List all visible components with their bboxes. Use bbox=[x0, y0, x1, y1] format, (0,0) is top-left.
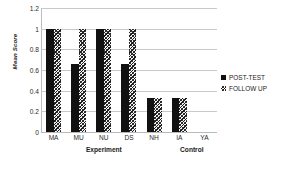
bar-group-nh bbox=[142, 8, 167, 132]
y-axis-tick: 0.6 bbox=[30, 67, 39, 74]
y-axis-tick: 0.8 bbox=[30, 46, 39, 53]
x-axis-tick-nu: NU bbox=[91, 134, 116, 141]
x-axis-tick-ds: DS bbox=[116, 134, 141, 141]
bar-ma-post-test bbox=[46, 29, 54, 132]
x-axis-tick-nh: NH bbox=[142, 134, 167, 141]
group-label-experiment: Experiment bbox=[64, 146, 144, 153]
gridline bbox=[41, 132, 217, 133]
bar-groups bbox=[41, 8, 217, 132]
x-axis-tick-ya: YA bbox=[192, 134, 217, 141]
group-label-control: Control bbox=[152, 146, 232, 153]
legend-item-post-test[interactable]: POST-TEST bbox=[221, 72, 305, 83]
legend-swatch-icon bbox=[221, 86, 226, 91]
y-axis-tick-labels: 00.20.40.60.811.2 bbox=[23, 8, 39, 132]
x-axis-tick-mu: MU bbox=[66, 134, 91, 141]
legend-label: FOLLOW UP bbox=[229, 85, 267, 92]
chart-legend: POST-TESTFOLLOW UP bbox=[221, 72, 305, 94]
y-axis-tick: 0.4 bbox=[30, 87, 39, 94]
y-axis-title: Mean Score bbox=[11, 22, 18, 82]
plot-area bbox=[41, 8, 217, 132]
bar-ds-post-test bbox=[121, 64, 129, 132]
x-axis-tick-ia: IA bbox=[167, 134, 192, 141]
bar-group-ds bbox=[116, 8, 141, 132]
bar-group-mu bbox=[66, 8, 91, 132]
y-axis-tick: 0 bbox=[35, 129, 39, 136]
bar-nu-post-test bbox=[96, 29, 104, 132]
bar-group-ia bbox=[167, 8, 192, 132]
bar-mu-follow-up bbox=[79, 29, 87, 132]
bar-nh-post-test bbox=[147, 98, 155, 132]
legend-label: POST-TEST bbox=[229, 74, 265, 81]
y-axis-tick: 1.2 bbox=[30, 5, 39, 12]
x-axis-tick-labels: MAMUNUDSNHIAYA bbox=[41, 134, 217, 141]
legend-item-follow-up[interactable]: FOLLOW UP bbox=[221, 83, 305, 94]
bar-group-ya bbox=[192, 8, 217, 132]
bar-group-nu bbox=[91, 8, 116, 132]
y-axis-tick: 0.2 bbox=[30, 108, 39, 115]
bar-chart: Mean Score 00.20.40.60.811.2 MAMUNUDSNHI… bbox=[0, 0, 308, 169]
bar-ia-post-test bbox=[172, 98, 180, 132]
bar-mu-post-test bbox=[71, 64, 79, 132]
bar-nh-follow-up bbox=[154, 98, 162, 132]
bar-ma-follow-up bbox=[54, 29, 62, 132]
bar-nu-follow-up bbox=[104, 29, 112, 132]
x-axis-tick-ma: MA bbox=[41, 134, 66, 141]
bar-ds-follow-up bbox=[129, 29, 137, 132]
y-axis-tick: 1 bbox=[35, 25, 39, 32]
bar-group-ma bbox=[41, 8, 66, 132]
bar-ia-follow-up bbox=[179, 98, 187, 132]
legend-swatch-icon bbox=[221, 75, 226, 80]
x-axis-group-labels: ExperimentControl bbox=[41, 146, 217, 158]
